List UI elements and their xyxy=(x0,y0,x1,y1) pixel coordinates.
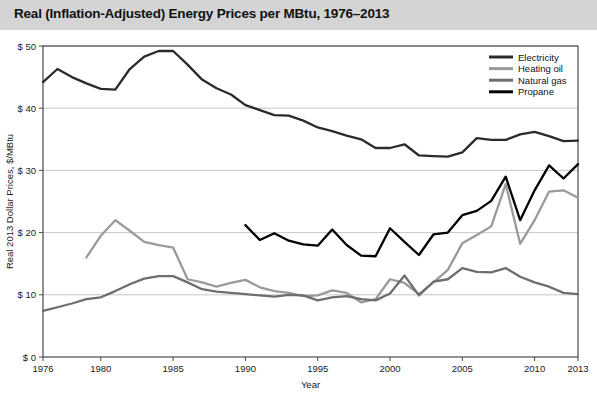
x-tick-label-1985: 1985 xyxy=(163,363,184,374)
x-tick-label-1995: 1995 xyxy=(307,363,328,374)
chart-legend: ElectricityHeating oilNatural gasPropane xyxy=(489,52,567,98)
title-bar: Real (Inflation-Adjusted) Energy Prices … xyxy=(0,0,597,30)
line-chart: 197619801985199019952000200520102013 $ 0… xyxy=(0,30,597,397)
x-tick-label-1976: 1976 xyxy=(32,363,53,374)
chart-figure: Real (Inflation-Adjusted) Energy Prices … xyxy=(0,0,597,397)
legend-label-electricity: Electricity xyxy=(518,52,559,63)
axis-titles: YearReal 2013 Dollar Prices, $/MBtu xyxy=(4,134,320,390)
x-tick-label-1990: 1990 xyxy=(235,363,256,374)
x-axis-title: Year xyxy=(301,379,320,390)
x-tick-label-2013: 2013 xyxy=(567,363,588,374)
plot-area: 197619801985199019952000200520102013 $ 0… xyxy=(0,30,597,397)
y-axis-title: Real 2013 Dollar Prices, $/MBtu xyxy=(4,134,15,269)
page-title: Real (Inflation-Adjusted) Energy Prices … xyxy=(14,6,389,21)
series-line-natural-gas xyxy=(43,268,578,311)
series-line-propane xyxy=(245,164,578,256)
y-tick-label-40: $ 40 xyxy=(18,103,37,114)
x-tick-label-2005: 2005 xyxy=(452,363,473,374)
gridlines xyxy=(43,46,578,295)
legend-label-heating-oil: Heating oil xyxy=(518,63,563,74)
x-tick-label-1980: 1980 xyxy=(90,363,111,374)
y-tick-label-0: $ 0 xyxy=(23,352,36,363)
data-series-group xyxy=(43,51,578,311)
y-tick-label-50: $ 50 xyxy=(18,41,37,52)
series-line-heating-oil xyxy=(86,184,578,302)
x-tick-label-2010: 2010 xyxy=(524,363,545,374)
x-axis-ticks: 197619801985199019952000200520102013 xyxy=(32,357,588,374)
y-axis-ticks: $ 0$ 10$ 20$ 30$ 40$ 50 xyxy=(18,41,44,363)
legend-label-propane: Propane xyxy=(518,86,554,97)
y-tick-label-20: $ 20 xyxy=(18,227,37,238)
x-tick-label-2000: 2000 xyxy=(379,363,400,374)
series-line-electricity xyxy=(43,51,578,157)
legend-label-natural-gas: Natural gas xyxy=(518,75,567,86)
y-tick-label-10: $ 10 xyxy=(18,289,37,300)
y-tick-label-30: $ 30 xyxy=(18,165,37,176)
